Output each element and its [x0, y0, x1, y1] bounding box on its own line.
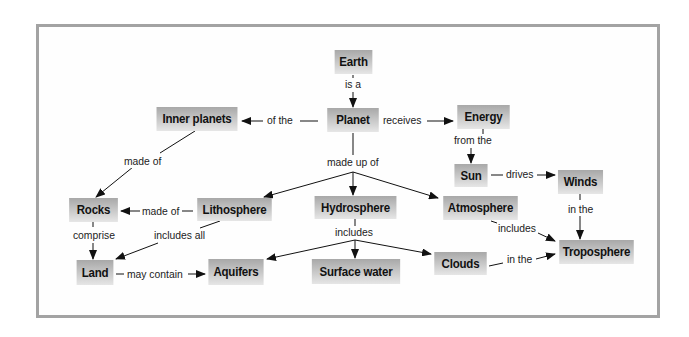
node-aquifers: Aquifers [208, 259, 263, 285]
link-label-from-the: from the [453, 134, 493, 147]
link-label-made-of-litho: made of [141, 205, 180, 218]
link-label-drives: drives [505, 168, 534, 181]
node-atmosphere: Atmosphere [443, 196, 518, 220]
link-label-of-the: of the [266, 114, 294, 127]
link-label-made-of-inner: made of [123, 155, 162, 168]
link-label-made-up-of: made up of [326, 156, 380, 169]
node-inner-planets: Inner planets [157, 107, 238, 131]
link-label-includes-hydro: includes [334, 226, 374, 239]
node-troposphere: Troposphere [559, 240, 634, 264]
node-sun: Sun [454, 164, 487, 187]
link-label-is-a: is a [344, 78, 362, 91]
node-energy: Energy [457, 105, 509, 129]
node-planet: Planet [327, 108, 379, 132]
node-lithosphere: Lithosphere [197, 198, 272, 221]
node-surface-water: Surface water [312, 259, 400, 284]
node-hydrosphere: Hydrosphere [315, 196, 397, 219]
node-earth: Earth [335, 50, 373, 74]
node-rocks: Rocks [69, 198, 118, 222]
link-label-receives: receives [382, 114, 422, 127]
node-clouds: Clouds [434, 252, 486, 275]
link-label-includes-atmo: includes [497, 222, 537, 235]
link-label-in-the-clouds: in the [506, 253, 533, 266]
node-land: Land [77, 260, 114, 285]
link-label-in-the-winds: in the [567, 203, 594, 216]
link-label-comprise: comprise [72, 229, 116, 242]
node-winds: Winds [558, 170, 603, 194]
link-label-may-contain: may contain [126, 268, 184, 281]
link-label-includes-all: includes all [153, 229, 206, 242]
